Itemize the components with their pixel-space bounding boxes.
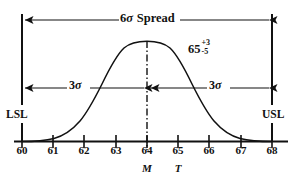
tick-label-64: 64 [142, 145, 153, 156]
mean-mark-label: M [142, 163, 152, 174]
lsl-label: LSL [6, 109, 28, 121]
tick-label-63: 63 [111, 145, 122, 156]
process-capability-figure: 6σSpread 3σ 3σ 65+3-5 LSL USL 60 61 62 6… [0, 0, 295, 183]
sigma-right-label: 3σ [209, 79, 221, 91]
target-mark-label: T [175, 163, 182, 174]
tick-label-60: 60 [17, 145, 28, 156]
tick-label-68: 68 [267, 145, 278, 156]
sigma-right-symbol: σ [215, 78, 221, 92]
sigma-left-label: 3σ [69, 79, 81, 91]
tick-label-67: 67 [236, 145, 247, 156]
tick-label-62: 62 [79, 145, 90, 156]
sigma-left-symbol: σ [75, 78, 81, 92]
spread-word: Spread [137, 11, 175, 25]
tolerance-annotation: 65+3-5 [188, 39, 210, 56]
spread-sigma-symbol: σ [126, 11, 133, 25]
tolerance-lower: -5 [202, 47, 209, 56]
tick-label-61: 61 [48, 145, 59, 156]
tick-label-65: 65 [173, 145, 184, 156]
spread-label: 6σSpread [120, 12, 175, 25]
tick-label-66: 66 [204, 145, 215, 156]
tolerance-nominal: 65 [188, 42, 201, 56]
usl-label: USL [262, 109, 284, 121]
tolerance-deviations: +3-5 [202, 39, 211, 56]
